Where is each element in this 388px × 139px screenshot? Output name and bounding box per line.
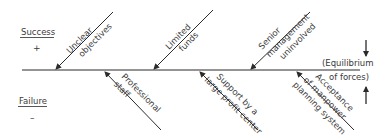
equilibrium-label-line2: of forces) — [329, 72, 369, 82]
equilibrium-label-line1: (Equilibrium — [322, 58, 373, 68]
driving-force-support-profit-center: Support by a large profit center — [200, 67, 272, 137]
success-label-group: Success + — [20, 27, 56, 53]
plus-sign: + — [33, 43, 41, 53]
failure-label-group: Failure – — [18, 96, 47, 123]
restraining-force-limited-funds: Limited funds — [154, 10, 213, 69]
force-field-diagram: Success + Failure – Unclear objectives L… — [0, 0, 388, 139]
failure-label: Failure — [19, 96, 47, 106]
success-label: Success — [21, 27, 56, 37]
restraining-force-senior-management: Senior management uninvolved — [251, 3, 320, 69]
minus-sign: – — [30, 113, 35, 123]
driving-force-professional-staff: Professional staff — [105, 71, 163, 130]
restraining-force-unclear-objectives: Unclear objectives — [56, 12, 114, 69]
